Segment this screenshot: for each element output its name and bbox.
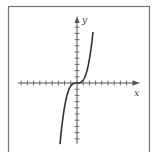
axes bbox=[18, 16, 140, 144]
y-axis-label: y bbox=[81, 15, 88, 25]
y-axis-arrow-icon bbox=[75, 16, 80, 23]
cubic-function-graph: y x bbox=[0, 0, 155, 152]
x-axis-arrow-icon bbox=[133, 81, 140, 86]
graph-frame bbox=[9, 7, 150, 153]
x-axis-label: x bbox=[134, 88, 139, 98]
